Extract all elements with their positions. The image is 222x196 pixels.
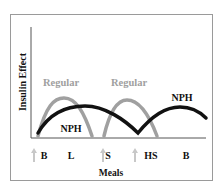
regular-curve-2 bbox=[104, 100, 157, 136]
tick-label: B bbox=[41, 150, 48, 161]
tick-label: B bbox=[183, 150, 190, 161]
insulin-chart: Insulin Effect Regular Regular NPH NPH B… bbox=[0, 0, 222, 196]
regular-label-2: Regular bbox=[111, 77, 148, 88]
arrow-up-icon bbox=[31, 148, 37, 162]
nph-label-1: NPH bbox=[60, 123, 81, 134]
arrow-up-icon bbox=[132, 148, 138, 162]
tick-label: L bbox=[68, 150, 75, 161]
regular-label-1: Regular bbox=[43, 77, 80, 88]
tick-label: S bbox=[105, 150, 111, 161]
x-axis-label: Meals bbox=[99, 168, 124, 178]
tick-label: HS bbox=[144, 150, 158, 161]
y-axis-label: Insulin Effect bbox=[17, 52, 28, 111]
nph-label-2: NPH bbox=[171, 92, 192, 103]
